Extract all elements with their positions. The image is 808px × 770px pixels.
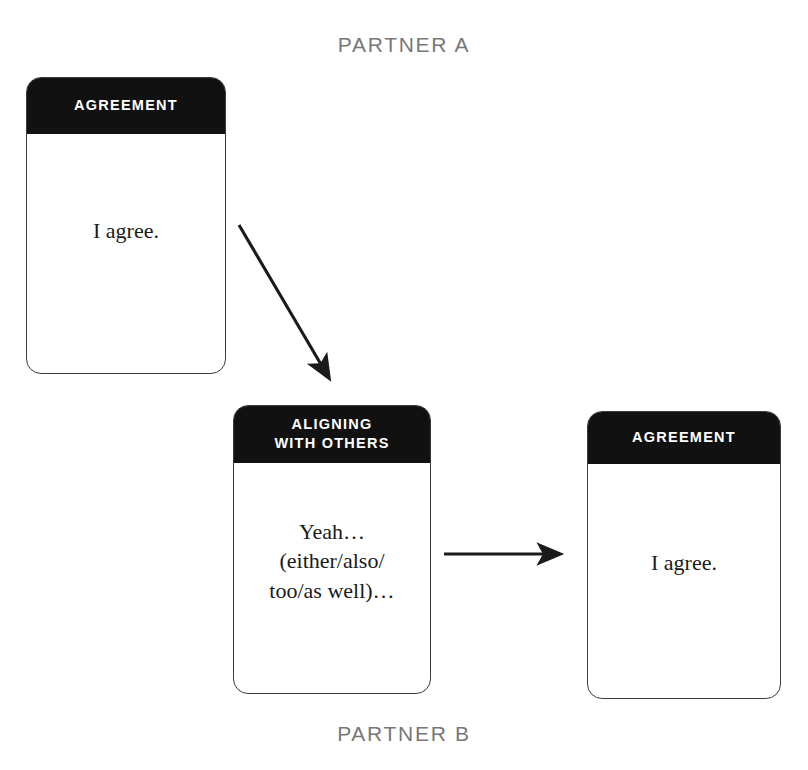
- arrow-agreement-a-to-aligning-icon: [225, 205, 355, 405]
- partner-b-label: PARTNER B: [0, 722, 808, 746]
- card-agreement-partner-b-header: AGREEMENT: [587, 411, 781, 464]
- card-agreement-partner-a-header: AGREEMENT: [26, 77, 226, 134]
- card-aligning-with-others-header: ALIGNING WITH OTHERS: [233, 405, 431, 463]
- card-agreement-partner-a-body: I agree.: [27, 134, 225, 373]
- diagram-canvas: PARTNER A AGREEMENT I agree. ALIGNING WI…: [0, 0, 808, 770]
- card-aligning-with-others-body: Yeah… (either/also/ too/as well)…: [234, 463, 430, 693]
- partner-a-label: PARTNER A: [0, 33, 808, 57]
- card-agreement-partner-a: AGREEMENT I agree.: [26, 77, 226, 374]
- card-agreement-partner-b: AGREEMENT I agree.: [587, 411, 781, 699]
- card-agreement-partner-b-body: I agree.: [588, 464, 780, 698]
- card-aligning-with-others: ALIGNING WITH OTHERS Yeah… (either/also/…: [233, 405, 431, 694]
- arrow-aligning-to-agreement-b-icon: [436, 534, 582, 576]
